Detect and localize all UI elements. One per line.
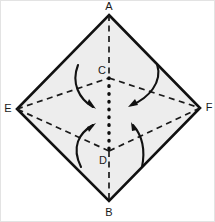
- vertex-label-d: D: [99, 154, 107, 166]
- vertex-label-c: C: [98, 64, 106, 76]
- diagram-canvas: A B E F C D: [0, 0, 215, 222]
- vertex-label-e: E: [4, 102, 11, 114]
- vertex-label-f: F: [206, 101, 213, 113]
- vertex-label-b: B: [105, 206, 112, 218]
- vertex-label-a: A: [105, 1, 113, 12]
- geometry-figure: A B E F C D: [1, 1, 215, 222]
